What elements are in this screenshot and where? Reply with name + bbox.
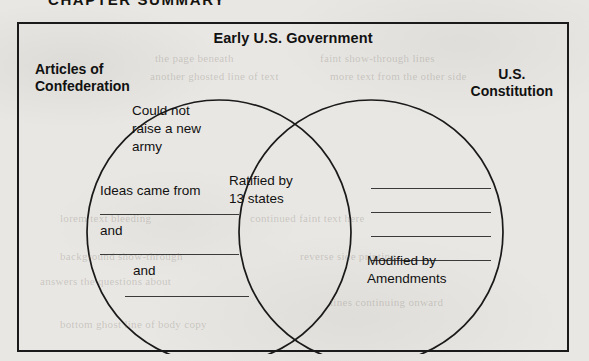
left-item-ideas-came-from: Ideas came from (100, 182, 201, 200)
chapter-heading: CHAPTER SUMMARY (48, 0, 226, 8)
left-blank-line-3[interactable] (125, 296, 249, 297)
left-item-and-2: and (133, 262, 156, 280)
right-item-modified-by-amendments: Modified by Amendments (367, 252, 447, 288)
left-blank-line-1[interactable] (100, 214, 239, 215)
left-item-could-not-raise-army: Could not raise a new army (132, 102, 201, 156)
left-blank-line-2[interactable] (100, 254, 239, 255)
overlap-item-ratified-by-13-states: Ratified by 13 states (229, 172, 293, 208)
right-set-label: U.S. Constitution (471, 66, 553, 100)
left-circle (87, 100, 351, 354)
left-set-label: Articles of Confederation (35, 61, 130, 95)
right-circle (239, 100, 503, 354)
right-blank-line-1[interactable] (371, 188, 491, 189)
venn-diagram-container: Early U.S. Government Articles of Confed… (17, 22, 569, 352)
right-blank-line-3[interactable] (371, 236, 491, 237)
right-blank-line-2[interactable] (371, 212, 491, 213)
diagram-title: Early U.S. Government (19, 30, 567, 46)
chapter-heading-clip: CHAPTER SUMMARY (0, 0, 589, 9)
left-item-and-1: and (100, 222, 123, 240)
